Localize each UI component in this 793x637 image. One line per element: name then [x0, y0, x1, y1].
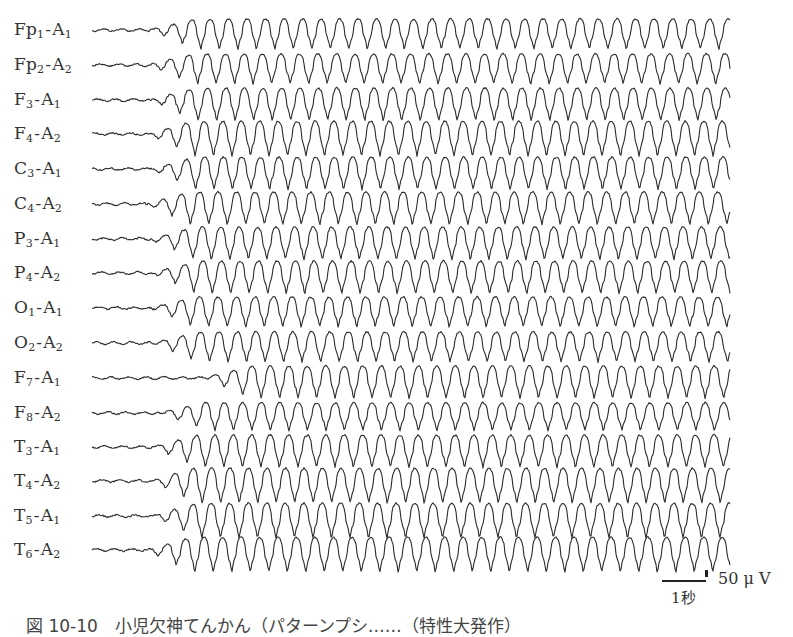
- eeg-trace: [92, 121, 730, 157]
- eeg-trace: [92, 191, 730, 224]
- time-scale-bar: [662, 580, 706, 582]
- eeg-trace: [92, 53, 730, 84]
- eeg-trace: [92, 226, 730, 260]
- eeg-trace: [92, 434, 730, 468]
- eeg-trace: [92, 468, 730, 504]
- eeg-trace: [92, 331, 730, 362]
- eeg-trace: [92, 260, 730, 293]
- eeg-traces: [0, 0, 793, 600]
- eeg-trace: [92, 402, 730, 431]
- voltage-scale-bar: [705, 570, 708, 577]
- eeg-trace: [92, 156, 730, 190]
- eeg-trace: [92, 87, 730, 120]
- eeg-trace: [92, 296, 730, 327]
- figure-caption: 図 10-10 小児欠神てんかん（パターンプシ……（特性大発作）: [26, 612, 521, 637]
- eeg-trace: [92, 503, 730, 539]
- eeg-trace: [92, 537, 730, 573]
- voltage-scale-label: 50 μ V: [718, 569, 770, 588]
- time-scale-label: 1秒: [671, 586, 696, 607]
- eeg-trace: [92, 365, 730, 398]
- eeg-trace: [92, 18, 730, 49]
